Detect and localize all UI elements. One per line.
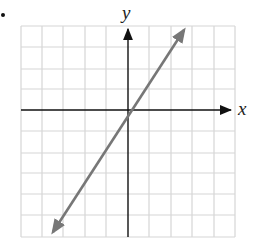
- x-axis-label: x: [237, 98, 247, 119]
- coordinate-plane: x y: [0, 0, 257, 244]
- y-axis-label: y: [120, 2, 131, 23]
